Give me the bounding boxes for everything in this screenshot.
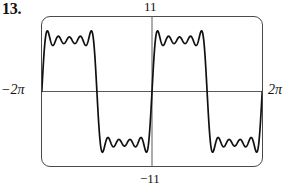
y-min-label: −11 (140, 172, 160, 185)
x-max-label: 2π (268, 83, 282, 97)
x-min-label: −2π (1, 83, 24, 97)
y-max-label: 11 (144, 0, 157, 13)
plot-canvas (0, 0, 289, 192)
figure-13: 13. 11 −11 −2π 2π (0, 0, 289, 192)
